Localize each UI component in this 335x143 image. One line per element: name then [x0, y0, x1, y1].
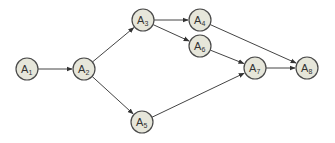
node-subscript: 5 — [144, 122, 148, 129]
node-a3: A3 — [132, 9, 154, 31]
node-subscript: 3 — [145, 20, 149, 27]
node-subscript: 1 — [29, 69, 33, 76]
edge-a2-a3 — [92, 28, 133, 62]
directed-graph: A1A2A3A4A5A6A7A8 — [0, 0, 335, 143]
node-subscript: 7 — [257, 68, 261, 75]
edge-a5-a7 — [152, 73, 244, 117]
node-subscript: 2 — [86, 69, 90, 76]
nodes-group: A1A2A3A4A5A6A7A8 — [16, 9, 318, 133]
node-a5: A5 — [131, 111, 153, 133]
node-a8: A8 — [296, 57, 318, 79]
node-subscript: 4 — [202, 20, 206, 27]
node-subscript: 6 — [202, 46, 206, 53]
node-a7: A7 — [244, 57, 266, 79]
node-subscript: 8 — [309, 68, 313, 75]
edge-a3-a6 — [153, 25, 189, 41]
node-a1: A1 — [16, 58, 38, 80]
edge-a6-a7 — [210, 50, 244, 63]
node-a4: A4 — [189, 9, 211, 31]
node-a6: A6 — [189, 35, 211, 57]
edge-a2-a5 — [92, 76, 133, 113]
node-a2: A2 — [73, 58, 95, 80]
